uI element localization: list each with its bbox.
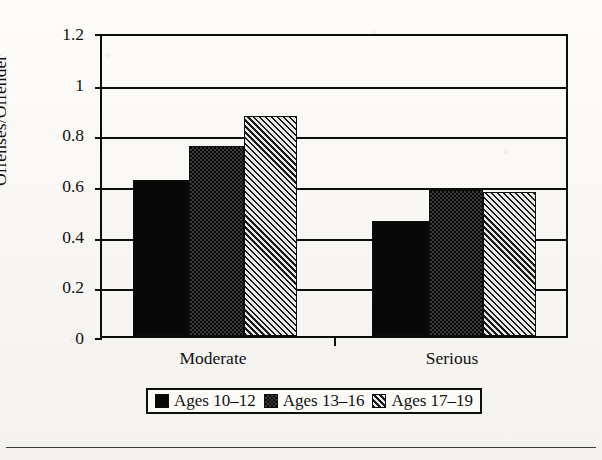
y-tick-label-1.2: 1.2 [62, 24, 84, 45]
gridline-0.8 [102, 137, 566, 139]
y-tick-1.0 [95, 87, 102, 89]
bar-serious-ages-17-19 [483, 192, 536, 336]
x-label-serious: Serious [426, 348, 479, 369]
y-tick-0.4 [95, 239, 102, 241]
x-label-moderate: Moderate [179, 348, 246, 369]
y-tick-0.6 [95, 188, 102, 190]
x-tick-divider [334, 338, 336, 346]
y-tick-label-0.4: 0.4 [62, 226, 84, 247]
y-axis-tick-labels: 1.2 1 0.8 0.6 0.4 0.2 0 [0, 0, 94, 460]
legend-item-ages-13-16: Ages 13–16 [264, 391, 373, 411]
bar-moderate-ages-17-19 [244, 116, 297, 336]
y-tick-label-0.6: 0.6 [62, 176, 84, 197]
bar-serious-ages-13-16 [429, 190, 483, 336]
y-tick-0.2 [95, 289, 102, 291]
gridline-1.0 [102, 87, 566, 89]
bar-moderate-ages-13-16 [189, 146, 244, 336]
legend-item-ages-17-19: Ages 17–19 [372, 391, 473, 411]
chart-legend: Ages 10–12 Ages 13–16 Ages 17–19 [146, 388, 482, 414]
bar-chart-figure: Offenses/Offender 1.2 1 0.8 0.6 0.4 0.2 … [0, 0, 602, 460]
y-tick-label-0.2: 0.2 [62, 277, 84, 298]
y-tick-0 [95, 338, 102, 340]
legend-item-ages-10-12: Ages 10–12 [155, 391, 264, 411]
y-tick-label-0: 0 [75, 328, 84, 349]
page-divider-rule [6, 447, 596, 448]
plot-area [100, 34, 568, 338]
legend-swatch-hatch-icon [372, 394, 386, 408]
bar-serious-ages-10-12 [372, 221, 429, 336]
y-tick-label-1: 1 [75, 74, 84, 95]
legend-label-ages-17-19: Ages 17–19 [391, 391, 473, 411]
legend-swatch-solid-icon [155, 394, 169, 408]
y-tick-1.2 [95, 34, 102, 36]
legend-label-ages-10-12: Ages 10–12 [174, 391, 256, 411]
legend-label-ages-13-16: Ages 13–16 [283, 391, 365, 411]
y-tick-label-0.8: 0.8 [62, 125, 84, 146]
y-tick-0.8 [95, 137, 102, 139]
bar-moderate-ages-10-12 [133, 180, 189, 336]
legend-swatch-stipple-icon [264, 394, 278, 408]
